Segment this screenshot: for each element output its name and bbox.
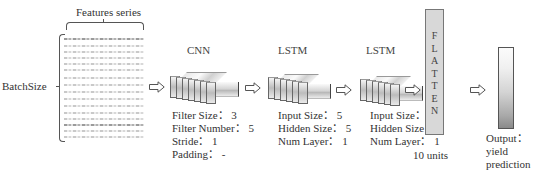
lstm1-title: LSTM [278, 44, 307, 57]
cnn-param-padding: Padding： - [172, 148, 225, 161]
output-label-line1: Output： [486, 132, 528, 145]
arrow-right-icon [405, 84, 421, 96]
lstm1-layer-stack [266, 74, 340, 104]
output-label-line2: yield [486, 145, 508, 158]
lstm2-title: LSTM [366, 44, 395, 57]
flatten-label: F L A T T E N [426, 30, 443, 118]
lstm1-param-hidden-size: Hidden Size： 5 [278, 122, 351, 135]
flatten-layer: F L A T T E N [425, 9, 444, 135]
features-brace-tip [103, 19, 104, 23]
batch-brace-tip [56, 86, 60, 87]
cnn-title: CNN [187, 44, 210, 57]
batch-size-label: BatchSize [2, 80, 47, 93]
cnn-layer-stack [168, 72, 242, 102]
arrow-right-icon [149, 81, 165, 93]
features-series-matrix [64, 34, 144, 140]
cnn-param-stride: Stride： 1 [172, 135, 218, 148]
features-series-label: Features series [76, 6, 141, 19]
arrow-right-icon [336, 84, 352, 96]
flatten-units-label: 10 units [413, 149, 448, 162]
lstm1-param-num-layer: Num Layer： 1 [278, 135, 348, 148]
features-brace [66, 22, 144, 30]
cnn-param-filter-size: Filter Size： 3 [172, 109, 237, 122]
output-layer [498, 47, 514, 129]
output-label-line3: prediction [486, 158, 531, 171]
cnn-param-filter-number: Filter Number： 5 [172, 122, 254, 135]
lstm1-param-input-size: Input Size： 5 [278, 109, 342, 122]
arrow-right-icon [245, 82, 261, 94]
arrow-right-icon [470, 84, 486, 96]
lstm2-param-num-layer: Num Layer： 1 [370, 135, 440, 148]
